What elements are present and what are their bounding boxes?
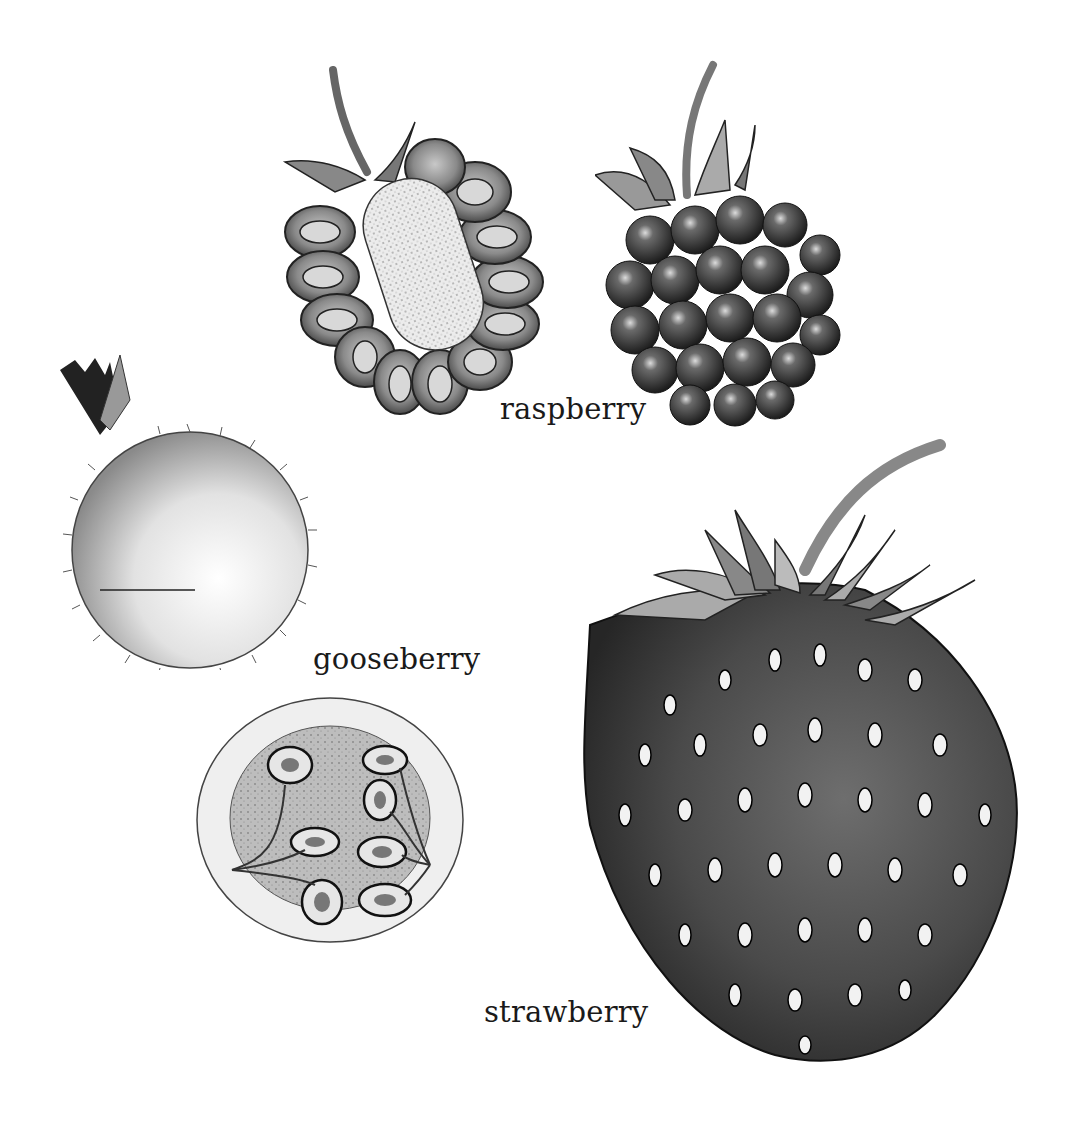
raspberry-label: raspberry xyxy=(500,392,646,426)
gooseberry-cross-section-illustration xyxy=(190,690,470,950)
gooseberry-label: gooseberry xyxy=(313,642,480,676)
strawberry-label: strawberry xyxy=(484,995,648,1029)
gooseberry-whole-illustration xyxy=(40,350,320,670)
clipped-bottom-heading xyxy=(0,1112,1066,1133)
raspberry-whole-illustration xyxy=(595,60,850,430)
strawberry-whole-illustration xyxy=(575,435,1030,1085)
botanical-plate: raspberry gooseberry strawberry xyxy=(0,0,1066,1133)
